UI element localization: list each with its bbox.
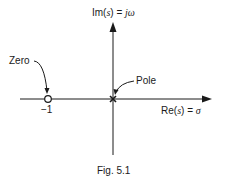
zero-marker-icon: [45, 96, 52, 103]
real-axis-arrow-icon: [202, 96, 212, 103]
zero-label: Zero: [9, 56, 30, 66]
zero-pointer: [34, 61, 47, 91]
pole-pointer-arrow-icon: [114, 89, 119, 95]
real-axis-label: Re(s) = σ: [161, 106, 201, 116]
s-plane-diagram: [0, 0, 239, 188]
pole-label: Pole: [136, 76, 156, 86]
imag-axis-arrow-icon: [110, 22, 117, 32]
figure-caption: Fig. 5.1: [97, 166, 130, 176]
pole-pointer: [116, 81, 134, 92]
zero-pointer-arrow-icon: [45, 88, 50, 94]
zero-tick-label: −1: [41, 105, 52, 115]
imag-axis-label: Im(s) = jω: [92, 8, 135, 18]
